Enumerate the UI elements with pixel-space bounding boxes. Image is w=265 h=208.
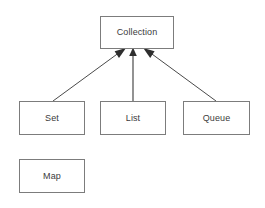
node-collection-label: Collection — [117, 27, 158, 38]
arrowhead-icon — [115, 48, 126, 58]
node-queue-label: Queue — [203, 113, 231, 124]
node-set[interactable]: Set — [19, 101, 85, 135]
node-map[interactable]: Map — [19, 159, 85, 193]
node-list[interactable]: List — [100, 101, 166, 135]
node-queue[interactable]: Queue — [183, 101, 250, 135]
arrowhead-icon — [143, 48, 154, 58]
class-hierarchy-diagram: Collection Set List Queue Map — [0, 0, 265, 208]
node-list-label: List — [126, 113, 140, 124]
edge-list-to-collection — [129, 48, 137, 102]
node-set-label: Set — [45, 113, 59, 124]
node-collection[interactable]: Collection — [100, 16, 174, 49]
edge-queue-to-collection — [143, 48, 216, 101]
node-map-label: Map — [43, 171, 61, 182]
edge-set-to-collection — [53, 48, 126, 101]
